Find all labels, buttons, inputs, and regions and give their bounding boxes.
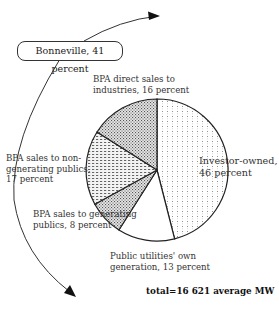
label-line: generating publics, <box>6 164 90 175</box>
total-label: total=16 621 average MW <box>146 286 274 296</box>
label-direct-sales: BPA direct sales to industries, 16 perce… <box>93 74 189 95</box>
arrowhead-bottom-icon <box>64 285 76 297</box>
arrowhead-top-icon <box>148 12 160 21</box>
label-line: Public utilities' own <box>110 251 210 262</box>
bonneville-arc-top <box>84 16 158 41</box>
label-line: Investor-owned, <box>199 155 277 167</box>
label-line: publics, 8 percent <box>33 220 137 231</box>
label-generating-publics: BPA sales to generating publics, 8 perce… <box>33 209 137 230</box>
label-line: BPA sales to generating <box>33 209 137 220</box>
label-line: generation, 13 percent <box>110 262 210 273</box>
label-line: industries, 16 percent <box>93 85 189 96</box>
label-public-utilities: Public utilities' own generation, 13 per… <box>110 251 210 272</box>
label-line: 17 percent <box>6 174 90 185</box>
bonneville-label: Bonneville, 41 percent <box>17 41 123 61</box>
label-line: BPA direct sales to <box>93 74 189 85</box>
label-line: BPA sales to non- <box>6 153 90 164</box>
label-nongenerating-publics: BPA sales to non- generating publics, 17… <box>6 153 90 185</box>
label-line: 46 percent <box>199 167 277 179</box>
label-investor-owned: Investor-owned, 46 percent <box>199 155 277 178</box>
